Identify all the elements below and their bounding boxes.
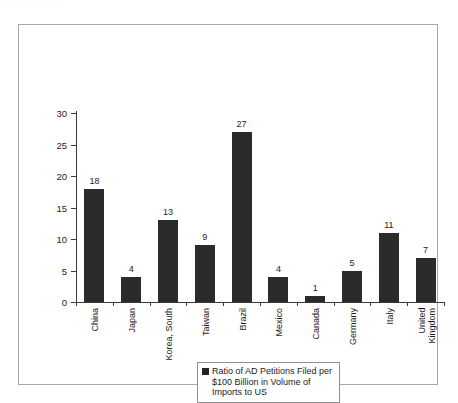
x-axis-category-label: Korea, South [164, 308, 174, 361]
y-axis-tick [71, 113, 76, 114]
bar: 4 [121, 277, 141, 302]
y-axis-tick-label: 25 [56, 139, 67, 150]
y-axis-tick-label: 30 [56, 108, 67, 119]
x-axis-category-label: Germany [348, 308, 358, 345]
x-axis-category-label: Japan [127, 308, 137, 333]
y-axis-tick [71, 145, 76, 146]
bar: 7 [416, 258, 436, 302]
bar-value-label: 27 [237, 119, 247, 129]
chart-legend: Ratio of AD Petitions Filed per $100 Bil… [197, 362, 340, 403]
bar: 4 [268, 277, 288, 302]
bar-value-label: 11 [384, 220, 393, 230]
x-axis-tick [113, 302, 114, 306]
bar: 1 [305, 296, 325, 302]
plot-area: 05101520253018413927415117 [76, 113, 444, 302]
x-axis-category-label: Taiwan [201, 308, 211, 336]
bar-value-label: 7 [423, 245, 428, 255]
x-axis-tick [150, 302, 151, 306]
y-axis-tick-label: 15 [56, 202, 67, 213]
y-axis-tick [71, 208, 76, 209]
bar-value-label: 4 [276, 264, 281, 274]
x-axis-tick [260, 302, 261, 306]
bar: 11 [379, 233, 399, 302]
x-axis-tick [223, 302, 224, 306]
chart-frame: 05101520253018413927415117 Ratio of AD P… [18, 24, 438, 385]
x-axis-tick [407, 302, 408, 306]
legend-entry: Ratio of AD Petitions Filed per $100 Bil… [202, 366, 335, 398]
bar: 27 [232, 132, 252, 302]
bar-value-label: 13 [163, 207, 173, 217]
bar: 13 [158, 220, 178, 302]
filled-square-icon [202, 368, 209, 375]
x-axis-category-label: United Kingdom [417, 308, 437, 344]
bar-value-label: 5 [349, 258, 354, 268]
bar: 18 [84, 189, 104, 302]
bar-value-label: 1 [313, 283, 318, 293]
x-axis-category-label: Italy [385, 308, 395, 325]
bar-value-label: 9 [202, 232, 207, 242]
x-axis-tick [334, 302, 335, 306]
y-axis-tick-label: 20 [56, 171, 67, 182]
y-axis-tick [71, 239, 76, 240]
bar-value-label: 18 [89, 176, 99, 186]
bar-value-label: 4 [129, 264, 134, 274]
legend-label: Ratio of AD Petitions Filed per $100 Bil… [212, 366, 335, 398]
x-axis-tick [186, 302, 187, 306]
x-axis-category-label: Brazil [238, 308, 248, 331]
x-axis-tick [76, 302, 77, 306]
scan-artifact-text: . . . . . . . . [0, 0, 458, 14]
x-axis-tick [297, 302, 298, 306]
x-axis-tick [444, 302, 445, 306]
bar: 9 [195, 245, 215, 302]
y-axis-tick-label: 5 [62, 265, 67, 276]
y-axis-tick-label: 10 [56, 234, 67, 245]
x-axis-category-label: Canada [311, 308, 321, 340]
y-axis-tick [71, 176, 76, 177]
x-axis-category-label: Mexico [274, 308, 284, 337]
y-axis-tick-label: 0 [62, 297, 67, 308]
x-axis-category-label: China [90, 308, 100, 332]
x-axis-tick [370, 302, 371, 306]
y-axis-tick [71, 271, 76, 272]
bar: 5 [342, 271, 362, 303]
